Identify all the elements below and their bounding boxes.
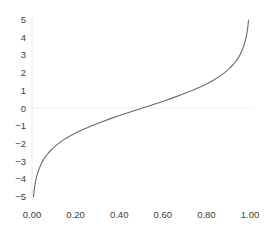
logit-chart: 543210−1−2−3−4−5 0.000.200.400.600.801.0… — [0, 0, 275, 231]
y-tick-label: −4 — [15, 175, 26, 185]
plot-area — [0, 0, 275, 231]
x-tick-label: 0.80 — [197, 210, 216, 220]
y-tick-label: −5 — [15, 192, 26, 202]
y-tick-label: 4 — [21, 33, 26, 43]
y-tick-label: −2 — [15, 139, 26, 149]
x-tick-label: 0.60 — [154, 210, 173, 220]
y-tick-label: −1 — [15, 121, 26, 131]
x-tick-label: 0.00 — [23, 210, 42, 220]
y-tick-label: 3 — [21, 51, 26, 61]
y-tick-label: −3 — [15, 157, 26, 167]
x-tick-label: 0.40 — [110, 210, 129, 220]
y-tick-label: 5 — [21, 15, 26, 25]
y-tick-label: 1 — [21, 86, 26, 96]
y-tick-label: 0 — [21, 104, 26, 114]
x-tick-label: 0.20 — [66, 210, 85, 220]
x-tick-label: 1.00 — [241, 210, 260, 220]
y-tick-label: 2 — [21, 68, 26, 78]
